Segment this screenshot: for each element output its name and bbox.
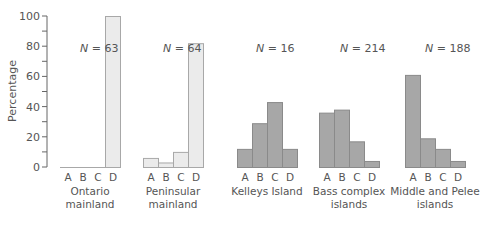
y-axis: 020406080100 <box>19 10 47 174</box>
y-tick-label: 80 <box>26 40 40 53</box>
n-label: N = 64 <box>163 42 201 55</box>
bar-a <box>238 149 253 167</box>
panels: ABCDN = 63OntariomainlandABCDN = 64Penin… <box>60 17 480 211</box>
bar-d <box>106 17 121 168</box>
group-label: mainland <box>149 198 198 210</box>
bar-b <box>335 110 350 167</box>
bar-c <box>268 103 283 168</box>
category-label: A <box>147 171 155 183</box>
panel-bass-complex-islands: ABCDN = 214Bass complexislands <box>313 42 386 210</box>
bar-a <box>320 113 335 167</box>
bar-c <box>350 142 365 168</box>
category-label: B <box>162 171 169 183</box>
bar-c <box>174 152 189 167</box>
bar-d <box>283 149 298 167</box>
category-label: C <box>353 171 360 183</box>
bar-b <box>159 163 174 168</box>
category-label: B <box>424 171 431 183</box>
category-label: D <box>192 171 200 183</box>
category-label: D <box>109 171 117 183</box>
n-label: N = 63 <box>80 42 118 55</box>
panel-middle-and-pelee-islands: ABCDN = 188Middle and Peleeislands <box>390 42 479 210</box>
category-label: D <box>454 171 462 183</box>
category-label: C <box>177 171 184 183</box>
category-label: C <box>439 171 446 183</box>
bar-d <box>365 161 380 167</box>
bar-d <box>451 161 466 167</box>
group-label: Middle and Pelee <box>390 185 479 197</box>
y-axis-label: Percentage <box>6 60 19 122</box>
bar-d <box>189 44 204 168</box>
category-label: A <box>241 171 249 183</box>
group-label: islands <box>331 198 368 210</box>
y-tick-label: 20 <box>26 131 40 144</box>
bar-c <box>436 149 451 167</box>
category-label: B <box>256 171 263 183</box>
bar-chart: 020406080100 Percentage ABCDN = 63Ontari… <box>0 0 486 225</box>
category-label: C <box>271 171 278 183</box>
category-label: A <box>323 171 331 183</box>
category-label: A <box>64 171 72 183</box>
y-tick-label: 40 <box>26 101 40 114</box>
bar-a <box>406 75 421 167</box>
panel-peninsular-mainland: ABCDN = 64Peninsularmainland <box>143 42 204 210</box>
category-label: A <box>409 171 417 183</box>
y-tick-label: 100 <box>19 10 40 23</box>
group-label: Peninsular <box>146 185 201 197</box>
panel-kelleys-island: ABCDN = 16Kelleys Island <box>231 42 302 197</box>
group-label: Kelleys Island <box>231 185 302 197</box>
category-label: C <box>94 171 101 183</box>
y-tick-label: 0 <box>33 161 40 174</box>
group-label: Ontario <box>70 185 109 197</box>
n-label: N = 188 <box>425 42 470 55</box>
n-label: N = 214 <box>340 42 385 55</box>
n-label: N = 16 <box>256 42 294 55</box>
group-label: mainland <box>66 198 115 210</box>
category-label: B <box>338 171 345 183</box>
group-label: islands <box>417 198 454 210</box>
bar-a <box>144 158 159 167</box>
category-label: D <box>286 171 294 183</box>
category-label: B <box>79 171 86 183</box>
group-label: Bass complex <box>313 185 385 197</box>
category-label: D <box>368 171 376 183</box>
bar-b <box>421 139 436 168</box>
panel-ontario-mainland: ABCDN = 63Ontariomainland <box>60 17 121 211</box>
bar-b <box>253 124 268 168</box>
y-tick-label: 60 <box>26 70 40 83</box>
